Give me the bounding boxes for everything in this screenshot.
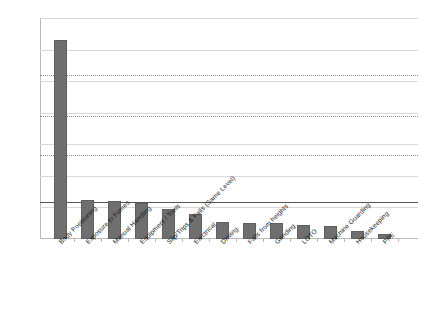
bar-chart: 010203040506070 Body PositioningExposure… bbox=[0, 0, 435, 328]
bar bbox=[54, 40, 67, 239]
x-axis-labels: Body PositioningExposure to FumesManual … bbox=[40, 241, 418, 328]
